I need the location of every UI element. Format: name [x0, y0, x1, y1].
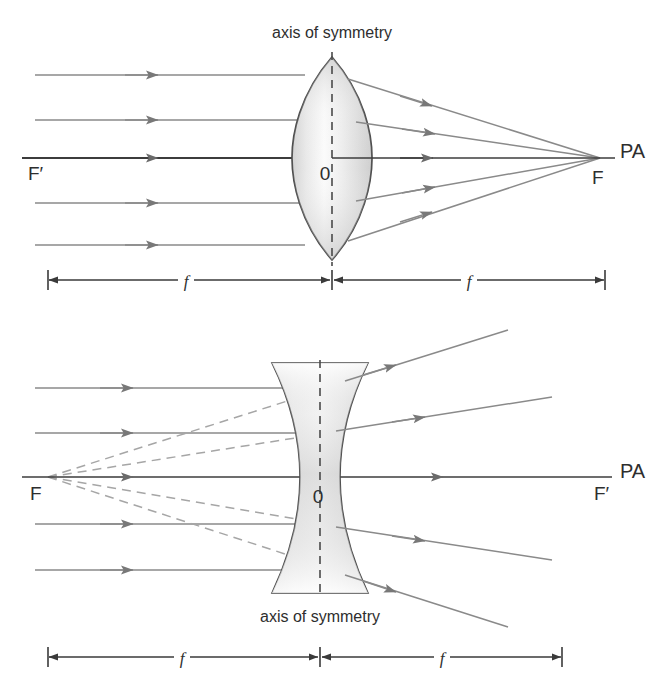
focal-length-dimension-convex — [48, 270, 605, 290]
refracted-ray-5-head — [400, 212, 432, 222]
lens-center-label-convex: 0 — [320, 163, 331, 184]
refracted-ray-5 — [348, 158, 600, 241]
axis-of-symmetry-caption-concave: axis of symmetry — [260, 608, 380, 625]
refracted-ray-c1-head — [363, 365, 396, 375]
left-focus-label-concave: F — [30, 483, 42, 504]
focal-length-dimension-concave — [48, 647, 562, 667]
refracted-ray-4-head — [402, 187, 435, 193]
refracted-ray-arrowheads-concave — [363, 365, 425, 592]
axis-of-symmetry-caption-convex: axis of symmetry — [272, 24, 392, 41]
diverging-lens-panel: axis of symmetry 0 F F′ PA f f — [22, 330, 646, 668]
incident-ray-arrowheads-concave — [100, 388, 133, 570]
virtual-rays-concave — [48, 390, 322, 566]
refracted-ray-c5-head — [363, 581, 396, 592]
virtual-ray-c4 — [48, 477, 314, 522]
refracted-ray-1 — [348, 79, 600, 158]
refracted-ray-4 — [356, 158, 600, 201]
right-focus-label-concave: F′ — [594, 483, 610, 504]
refracted-rays-convex — [348, 79, 600, 241]
right-focus-label-convex: F — [592, 167, 604, 188]
left-focus-label-convex: F′ — [28, 163, 44, 184]
principal-axis-label-concave: PA — [620, 460, 646, 482]
refracted-ray-c2-head — [392, 417, 425, 422]
refracted-ray-arrowheads-convex — [400, 96, 435, 222]
lens-ray-diagram-figure: axis of symmetry 0 F′ F PA f f — [0, 0, 666, 688]
refracted-ray-c2 — [336, 397, 552, 431]
refracted-ray-1-head — [400, 96, 432, 106]
diagram-canvas: axis of symmetry 0 F′ F PA f f — [0, 0, 666, 688]
refracted-ray-c4 — [336, 527, 552, 560]
refracted-ray-2-head — [402, 129, 435, 134]
lens-center-label-concave: 0 — [313, 486, 324, 507]
virtual-ray-c5 — [48, 477, 322, 566]
refracted-ray-c4-head — [392, 536, 425, 541]
converging-lens-panel: axis of symmetry 0 F′ F PA f f — [22, 24, 646, 291]
refracted-ray-2 — [356, 122, 600, 158]
principal-axis-label-convex: PA — [620, 140, 646, 162]
incident-rays-convex — [35, 75, 316, 245]
incident-rays-concave — [35, 388, 310, 570]
virtual-ray-c2 — [48, 435, 314, 477]
incident-ray-arrowheads-convex — [125, 75, 158, 245]
